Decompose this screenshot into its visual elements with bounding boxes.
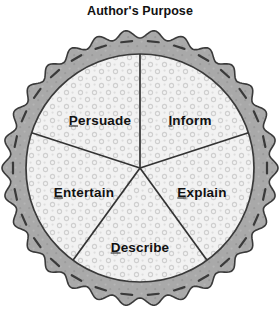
slice-label-entertain: Entertain — [54, 185, 114, 200]
crust-dash — [148, 294, 159, 295]
slice-label-explain: Explain — [177, 185, 226, 200]
authors-purpose-pie-diagram: Persuade Inform Explain Describe Enterta… — [0, 26, 280, 311]
slice-label-persuade-initial: P — [69, 113, 78, 128]
slice-label-entertain-rest: ntertain — [63, 185, 114, 200]
slice-label-entertain-initial: E — [54, 185, 63, 200]
slice-label-persuade: Persuade — [69, 113, 131, 128]
crust-dash — [121, 294, 132, 295]
slice-label-inform-rest: nform — [172, 113, 211, 128]
slice-label-describe-rest: escribe — [121, 240, 170, 255]
crust-dash — [148, 41, 159, 42]
slice-label-explain-initial: E — [177, 185, 186, 200]
crust-dash — [121, 41, 132, 42]
slice-label-describe-initial: D — [111, 240, 121, 255]
slice-label-describe: Describe — [111, 240, 170, 255]
slice-label-persuade-rest: ersuade — [78, 113, 131, 128]
slice-label-explain-rest: xplain — [187, 185, 227, 200]
pie-graphic — [0, 26, 280, 311]
slice-label-inform: Inform — [168, 113, 211, 128]
page-title: Author's Purpose — [0, 4, 280, 18]
